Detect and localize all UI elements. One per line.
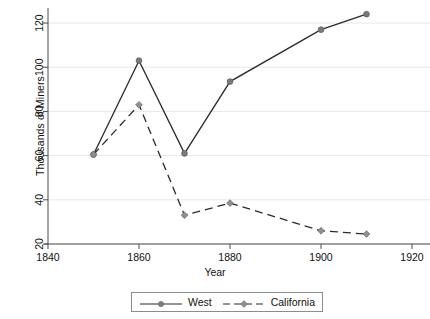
svg-text:60: 60 bbox=[33, 150, 45, 162]
legend-key-california bbox=[222, 296, 266, 308]
chart-legend: West California bbox=[131, 292, 323, 312]
svg-text:1900: 1900 bbox=[309, 251, 333, 263]
legend-label-california: California bbox=[271, 296, 315, 308]
legend-entry-california[interactable]: California bbox=[217, 293, 320, 311]
y-tick-group: 20406080100120 bbox=[33, 14, 48, 250]
data-series-group bbox=[90, 11, 370, 237]
svg-text:1840: 1840 bbox=[36, 251, 60, 263]
gridlines-group bbox=[48, 23, 430, 244]
svg-text:120: 120 bbox=[33, 14, 45, 32]
legend-key-west bbox=[139, 296, 183, 308]
chart-figure: Thousands of Miners Year 184018601880190… bbox=[0, 0, 430, 319]
svg-text:100: 100 bbox=[33, 58, 45, 76]
svg-text:20: 20 bbox=[33, 238, 45, 250]
svg-text:1860: 1860 bbox=[127, 251, 151, 263]
svg-text:1880: 1880 bbox=[218, 251, 242, 263]
line-chart-plot: 18401860188019001920 20406080100120 bbox=[0, 0, 430, 319]
svg-text:1920: 1920 bbox=[400, 251, 424, 263]
x-tick-group: 18401860188019001920 bbox=[36, 244, 424, 263]
legend-label-west: West bbox=[188, 296, 212, 308]
legend-entry-west[interactable]: West bbox=[134, 293, 217, 311]
svg-text:40: 40 bbox=[33, 194, 45, 206]
svg-text:80: 80 bbox=[33, 105, 45, 117]
axes-group bbox=[44, 8, 430, 244]
